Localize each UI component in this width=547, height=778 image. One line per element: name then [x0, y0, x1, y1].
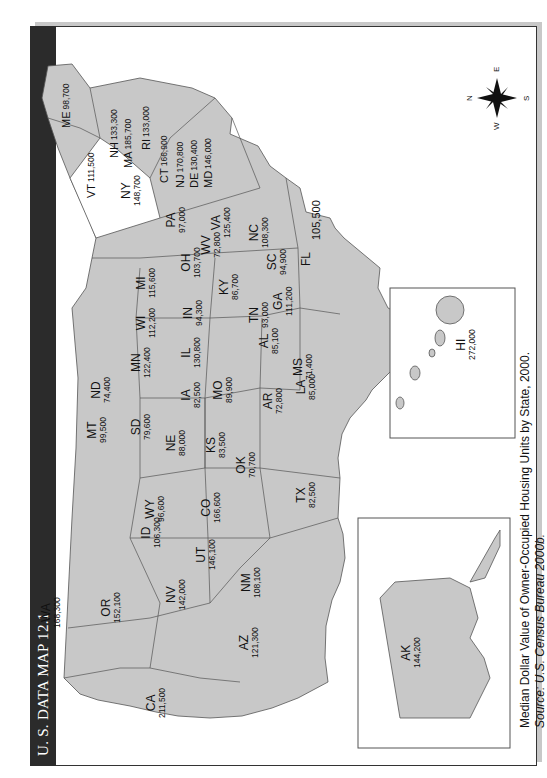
state-label-nm: NM108,100: [240, 567, 262, 598]
state-label-ne: NE88,000: [165, 430, 187, 456]
state-label-sd: SD79,600: [130, 414, 152, 440]
callout-vt: VT111,500: [85, 152, 97, 198]
compass-s: S: [522, 96, 531, 101]
state-label-wv: WV72,800: [200, 232, 222, 258]
callout-de: DE130,400: [188, 140, 200, 188]
callout-me: ME98,700: [60, 84, 72, 129]
state-label-ca: CA211,500: [145, 688, 167, 718]
state-label-pa: PA97,000: [165, 207, 187, 233]
compass-w: W: [492, 122, 501, 130]
compass-e: E: [492, 67, 501, 72]
state-label-ut: UT146,100: [195, 539, 217, 570]
map-caption: Median Dollar Value of Owner-Occupied Ho…: [518, 352, 547, 728]
state-label-or: OR152,100: [100, 592, 122, 623]
state-label-ms: MS71,400: [292, 354, 314, 380]
state-label-ar: AR72,800: [262, 388, 284, 414]
state-label-al: AL85,100: [258, 328, 280, 354]
state-label-wy: WY96,600: [144, 496, 166, 522]
compass-rose-icon: [477, 78, 517, 118]
state-label-il: IL130,800: [180, 337, 202, 368]
callout-md: MD146,000: [202, 138, 214, 188]
state-label-ny: NY148,700: [120, 175, 142, 206]
state-label-ok: OK70,700: [235, 452, 257, 478]
state-label-fl: FL: [300, 252, 312, 266]
state-label-ky: KY86,700: [218, 274, 240, 300]
state-label-mi: MI115,600: [135, 268, 157, 298]
callout-nj: NJ170,800: [174, 142, 186, 188]
state-label-nv: NV142,000: [165, 579, 187, 610]
state-label-in: IN94,300: [182, 300, 204, 326]
state-label-ia: IA82,500: [180, 382, 202, 408]
state-label-az: AZ121,300: [238, 627, 260, 658]
state-label-mo: MO89,900: [212, 377, 234, 403]
state-label-tx: TX82,500: [295, 482, 317, 508]
state-label-nc: NC108,300: [248, 217, 270, 248]
state-value-fl: 105,500: [310, 200, 322, 240]
state-label-mn: MN122,400: [130, 347, 152, 378]
callout-nh: NH133,300: [108, 109, 120, 158]
callout-ma: MA185,700: [122, 119, 134, 168]
state-label-sc: SC94,900: [266, 249, 288, 275]
rotated-page: U. S. DATA MAP 12.1: [0, 0, 547, 778]
state-label-mt: MT99,500: [86, 417, 108, 443]
state-label-ks: KS83,500: [205, 432, 227, 458]
compass-n: N: [465, 95, 474, 101]
callout-ct: CT166,900: [158, 136, 170, 183]
state-label-wi: WI112,200: [135, 308, 157, 338]
state-label-wa: WA168,300: [40, 597, 62, 628]
caption-title: Median Dollar Value of Owner-Occupied Ho…: [518, 352, 533, 728]
caption-source: Source: U.S. Census Bureau 2000b.: [533, 352, 547, 728]
state-label-tn: TN93,000: [248, 302, 270, 328]
callout-ri: RI133,000: [140, 106, 152, 150]
state-label-nd: ND74,400: [90, 377, 112, 403]
state-label-ak: AK144,200: [400, 637, 422, 668]
state-label-hi: HI272,000: [455, 329, 477, 360]
state-label-ga: GA111,200: [272, 287, 294, 316]
state-label-co: CO166,600: [200, 492, 222, 523]
